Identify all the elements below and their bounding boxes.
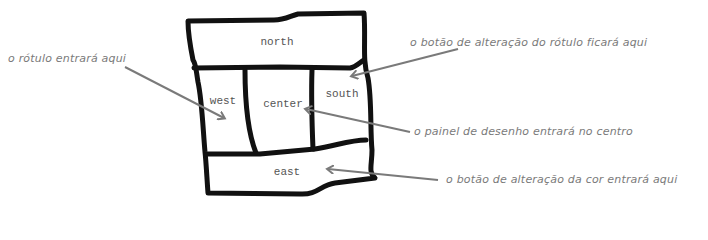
north-divider <box>194 60 364 68</box>
region-south: south <box>325 88 358 100</box>
note-label-change-button: o botão de alteração do rótulo ficará aq… <box>410 36 647 49</box>
arrow-to-east <box>328 169 438 180</box>
east-divider <box>206 140 366 154</box>
region-center: center <box>263 98 303 110</box>
west-center-divider <box>245 70 256 153</box>
arrow-to-south <box>352 49 458 76</box>
arrow-to-west <box>125 67 224 118</box>
note-label: o rótulo entrará aqui <box>8 52 126 65</box>
note-drawing-panel: o painel de desenho entrará no centro <box>414 125 633 138</box>
region-west: west <box>210 95 236 107</box>
note-color-change-button: o botão de alteração da cor entrará aqui <box>446 173 677 186</box>
arrow-to-center <box>306 109 410 132</box>
region-east: east <box>274 166 300 178</box>
region-north: north <box>260 36 293 48</box>
